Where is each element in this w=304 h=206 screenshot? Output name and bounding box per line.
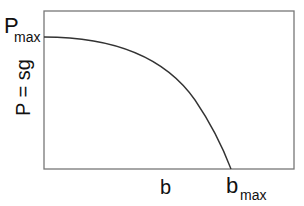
plot-frame [44,11,294,169]
x-tick-bmax: b [226,173,238,198]
y-tick-pmax-sub: max [14,29,40,45]
y-axis-label: P = sg [12,59,34,116]
x-tick-bmax-sub: max [240,187,266,203]
chart: P max P = sg b b max [0,0,304,206]
x-axis-label: b [160,176,171,198]
curve-p-vs-b [44,37,231,169]
